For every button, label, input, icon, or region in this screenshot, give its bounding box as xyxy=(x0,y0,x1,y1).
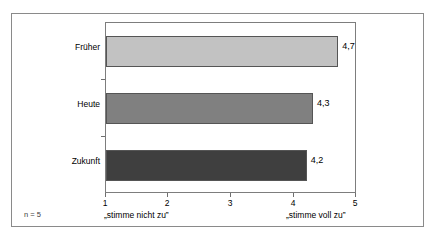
bar-row: 4,2 xyxy=(106,137,355,194)
x-axis-label-4: 4 xyxy=(291,198,296,208)
bar-value-zukunft: 4,2 xyxy=(311,155,324,165)
chart-figure: Früher Heute Zukunft 4,7 4,3 4,2 1 2 3 4… xyxy=(0,0,436,238)
bar-value-frueher: 4,7 xyxy=(342,41,355,51)
x-axis-label-1: 1 xyxy=(103,198,108,208)
sample-size-note: n = 5 xyxy=(24,210,41,219)
x-axis-label-3: 3 xyxy=(228,198,233,208)
category-label-zukunft: Zukunft xyxy=(38,156,100,166)
x-axis-tick-1 xyxy=(105,193,106,197)
scale-caption-left: „stimme nicht zu” xyxy=(104,210,169,220)
bar-value-heute: 4,3 xyxy=(317,98,330,108)
category-label-frueher: Früher xyxy=(38,42,100,52)
bar-zukunft xyxy=(106,150,307,181)
scale-caption-right: „stimme voll zu” xyxy=(286,210,346,220)
x-axis-tick-5 xyxy=(355,193,356,197)
bar-frueher xyxy=(106,36,338,67)
x-axis-label-2: 2 xyxy=(165,198,170,208)
x-axis-label-5: 5 xyxy=(353,198,358,208)
bar-row: 4,7 xyxy=(106,23,355,80)
x-axis-tick-2 xyxy=(167,193,168,197)
bar-row: 4,3 xyxy=(106,80,355,137)
x-axis-tick-3 xyxy=(230,193,231,197)
bar-heute xyxy=(106,93,313,124)
x-axis-tick-4 xyxy=(293,193,294,197)
plot-area: 4,7 4,3 4,2 xyxy=(105,22,356,193)
category-label-heute: Heute xyxy=(38,99,100,109)
category-axis-labels: Früher Heute Zukunft xyxy=(38,22,100,193)
